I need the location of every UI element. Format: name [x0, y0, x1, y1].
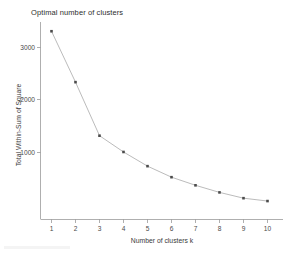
- x-tick-label-7: 7: [194, 225, 198, 232]
- x-axis-ticks: 1 2 3 4 5 6 7 8 9 10: [50, 220, 272, 233]
- x-tick-label-1: 1: [50, 225, 54, 232]
- data-point-k1: [50, 30, 53, 33]
- series-line: [52, 31, 268, 201]
- data-point-k3: [98, 134, 101, 137]
- data-point-k4: [122, 151, 125, 154]
- chart-canvas: 1000 2000 3000 1 2 3 4 5 6 7 8: [0, 0, 295, 255]
- y-axis-title: Total Within-Sum of Square: [15, 83, 23, 166]
- x-tick-label-2: 2: [74, 225, 78, 232]
- x-tick-label-10: 10: [264, 225, 272, 232]
- x-tick-label-4: 4: [122, 225, 126, 232]
- data-point-k10: [266, 200, 269, 203]
- data-point-k7: [194, 184, 197, 187]
- x-tick-label-6: 6: [170, 225, 174, 232]
- x-tick-label-5: 5: [146, 225, 150, 232]
- data-point-k9: [242, 197, 245, 200]
- x-axis-title: Number of clusters k: [131, 237, 194, 244]
- elbow-plot-figure: Optimal number of clusters 1000 2000 300…: [0, 0, 295, 255]
- x-tick-label-8: 8: [218, 225, 222, 232]
- data-point-k8: [218, 191, 221, 194]
- x-tick-label-9: 9: [242, 225, 246, 232]
- footer-artifact: [4, 246, 70, 249]
- series-markers: [50, 30, 269, 202]
- data-point-k6: [170, 176, 173, 179]
- data-point-k5: [146, 165, 149, 168]
- y-tick-label-3000: 3000: [20, 44, 35, 51]
- x-tick-label-3: 3: [98, 225, 102, 232]
- y-tick-label-1000: 1000: [20, 149, 35, 156]
- y-axis-ticks: 1000 2000 3000: [20, 44, 40, 156]
- data-point-k2: [74, 81, 77, 84]
- y-tick-label-2000: 2000: [20, 96, 35, 103]
